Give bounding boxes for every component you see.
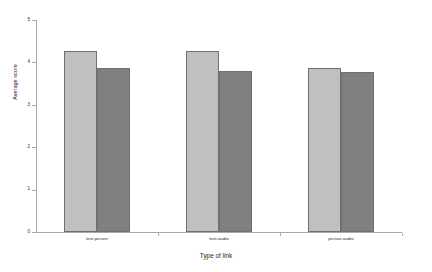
x-tick-1 (158, 233, 159, 236)
bar-text-audio-series-1 (186, 51, 219, 232)
bar-text-audio-series-2 (219, 71, 252, 232)
y-tick-0 (32, 232, 36, 233)
x-category-label-text-picture: text-picture (57, 237, 137, 241)
x-category-label-picture-audio: picture-audio (301, 237, 381, 241)
bar-picture-audio-series-1 (308, 68, 341, 232)
y-axis-title: Average score (13, 64, 19, 100)
bar-chart: 012345 text-picturetext-audiopicture-aud… (0, 0, 432, 272)
bar-picture-audio-series-2 (341, 72, 374, 232)
bar-text-picture-series-2 (97, 68, 130, 232)
x-tick-2 (280, 233, 281, 236)
x-axis-line (36, 232, 402, 233)
x-category-label-text-audio: text-audio (179, 237, 259, 241)
x-axis-title: Type of link (0, 253, 432, 259)
bars-layer (0, 0, 432, 232)
x-tick-3 (402, 233, 403, 236)
bar-text-picture-series-1 (64, 51, 97, 232)
